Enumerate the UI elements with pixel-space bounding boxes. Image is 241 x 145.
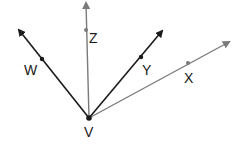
point-z: [84, 28, 88, 32]
point-w: [40, 57, 44, 61]
vertex-v: V: [84, 115, 94, 140]
label-w: W: [24, 62, 38, 78]
ray-vz: Z: [84, 3, 98, 118]
label-v: V: [84, 124, 94, 140]
label-x: X: [184, 70, 194, 86]
angle-diagram: W Z Y X V: [0, 0, 241, 145]
label-z: Z: [89, 30, 98, 46]
point-y: [139, 55, 143, 59]
point-v: [86, 115, 92, 121]
point-x: [186, 61, 190, 65]
ray-vy: Y: [89, 31, 162, 118]
ray-vw: W: [19, 30, 89, 118]
ray-vx: X: [89, 42, 229, 118]
label-y: Y: [142, 62, 152, 78]
